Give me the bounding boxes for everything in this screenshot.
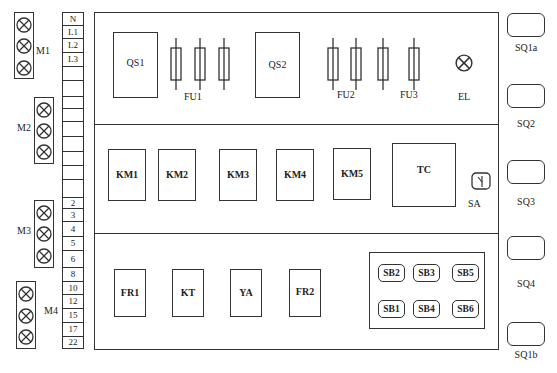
selector-switch-icon	[471, 172, 491, 190]
terminal-row	[62, 97, 84, 109]
contactor-km2: KM2	[158, 149, 196, 201]
fuse-icon	[350, 38, 362, 90]
terminal-row	[62, 67, 84, 81]
terminal-row: 15	[62, 309, 84, 323]
fuse-icon	[218, 38, 230, 90]
limit-switch-sq2	[507, 84, 545, 108]
terminal-row: 12	[62, 295, 84, 309]
limit-switch-label: SQ1a	[500, 42, 552, 53]
relay-fr2: FR2	[289, 269, 321, 317]
motor-lamp-icon	[36, 144, 52, 160]
limit-switch-label: SQ2	[500, 118, 552, 129]
contactor-km5: KM5	[333, 148, 371, 200]
fuse-group-label: FU3	[400, 89, 418, 100]
motor-lamp-icon	[36, 102, 52, 118]
section-divider	[94, 233, 499, 234]
relay-fr1: FR1	[114, 269, 146, 317]
motor-lamp-icon	[36, 226, 52, 242]
motor-label: M2	[17, 122, 31, 133]
limit-switch-sq3	[507, 160, 545, 184]
section-divider	[94, 124, 499, 125]
terminal-row	[62, 152, 84, 166]
limit-switch-label: SQ4	[500, 278, 552, 289]
terminal-row: L1	[62, 26, 84, 39]
motor-label: M3	[17, 225, 31, 236]
button-sb4[interactable]: SB4	[413, 300, 440, 318]
terminal-row: 8	[62, 268, 84, 282]
motor-label: M4	[44, 305, 58, 316]
lamp-label: EL	[458, 91, 470, 102]
fuse-icon	[170, 38, 182, 90]
button-sb1[interactable]: SB1	[378, 300, 405, 318]
fuse-icon	[194, 38, 206, 90]
terminal-row	[62, 81, 84, 97]
limit-switch-sq1b	[507, 322, 545, 346]
button-sb6[interactable]: SB6	[452, 300, 479, 318]
terminal-row	[62, 137, 84, 152]
contactor-km4: KM4	[276, 149, 314, 201]
fuse-group-label: FU2	[337, 89, 355, 100]
button-sb2[interactable]: SB2	[378, 264, 405, 282]
limit-switch-sq1a	[507, 13, 545, 37]
contactor-km1: KM1	[108, 149, 146, 201]
motor-label: M1	[36, 45, 50, 56]
button-sb3[interactable]: SB3	[413, 264, 440, 282]
motor-lamp-icon	[18, 329, 34, 345]
lamp-el-icon	[455, 54, 473, 72]
switch-qs1: QS1	[113, 32, 158, 98]
terminal-row	[62, 109, 84, 122]
terminal-row: 17	[62, 323, 84, 337]
terminal-row: L2	[62, 39, 84, 53]
terminal-row: 4	[62, 222, 84, 237]
button-sb5[interactable]: SB5	[452, 264, 479, 282]
motor-lamp-icon	[16, 17, 32, 33]
terminal-row: 10	[62, 282, 84, 295]
motor-lamp-icon	[36, 248, 52, 264]
fuse-group-label: FU1	[184, 91, 202, 102]
limit-switch-label: SQ1b	[500, 349, 552, 360]
terminal-row	[62, 122, 84, 137]
fuse-icon	[408, 38, 420, 90]
terminal-row: N	[62, 12, 84, 26]
limit-switch-sq4	[507, 236, 545, 260]
motor-lamp-icon	[36, 123, 52, 139]
terminal-row: 6	[62, 251, 84, 268]
terminal-row	[62, 166, 84, 180]
fuse-icon	[327, 38, 339, 90]
switch-qs2: QS2	[255, 32, 300, 98]
motor-lamp-icon	[18, 286, 34, 302]
contactor-km3: KM3	[219, 149, 257, 201]
solenoid-ya: YA	[230, 269, 262, 317]
motor-lamp-icon	[16, 60, 32, 76]
motor-lamp-icon	[16, 38, 32, 54]
timer-kt: KT	[172, 269, 204, 317]
terminal-row: L3	[62, 53, 84, 67]
terminal-row: 22	[62, 337, 84, 349]
terminal-row	[62, 180, 84, 198]
transformer-tc: TC	[392, 143, 456, 207]
terminal-row: 2	[62, 198, 84, 209]
switch-sa-label: SA	[468, 198, 481, 209]
terminal-row: 3	[62, 209, 84, 222]
motor-lamp-icon	[36, 205, 52, 221]
motor-lamp-icon	[18, 308, 34, 324]
limit-switch-label: SQ3	[500, 196, 552, 207]
terminal-row: 5	[62, 237, 84, 251]
fuse-icon	[377, 38, 389, 90]
